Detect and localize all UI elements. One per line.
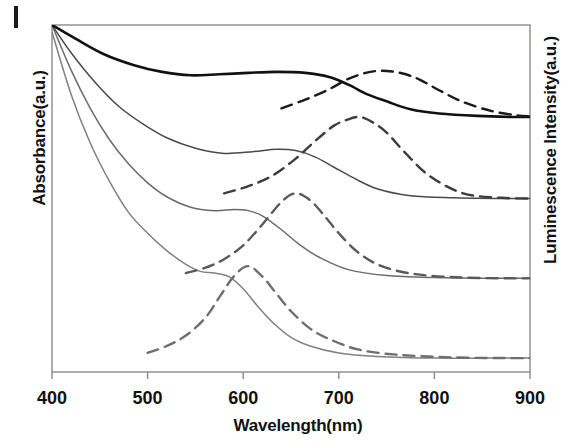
x-tick-label: 600	[213, 388, 273, 409]
x-axis-ticks	[52, 372, 530, 379]
y-axis-label-right: Luminescence Intensity(a.u.)	[541, 35, 561, 265]
x-axis-label: Wavelength(nm)	[168, 416, 428, 436]
spectra-figure	[0, 0, 584, 445]
x-tick-label: 400	[22, 388, 82, 409]
x-tick-label: 700	[309, 388, 369, 409]
x-tick-label: 800	[404, 388, 464, 409]
x-tick-label: 500	[118, 388, 178, 409]
y-axis-label-left: Absorbance(a.u.)	[30, 38, 50, 238]
x-tick-label: 900	[500, 388, 560, 409]
